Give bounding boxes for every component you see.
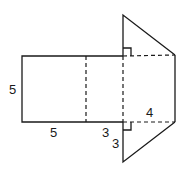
label-rect-width-left: 5 (50, 125, 57, 140)
right-angle-mark-bottom (123, 122, 131, 130)
label-rect-height: 5 (9, 82, 16, 97)
prism-net-diagram: 5 5 3 3 4 (0, 0, 183, 170)
rect-outline (22, 56, 123, 122)
label-triangle-horizontal: 4 (146, 105, 153, 120)
right-angle-mark-top (123, 48, 131, 56)
label-rect-width-right: 3 (102, 125, 109, 140)
label-triangle-vertical: 3 (112, 136, 119, 151)
